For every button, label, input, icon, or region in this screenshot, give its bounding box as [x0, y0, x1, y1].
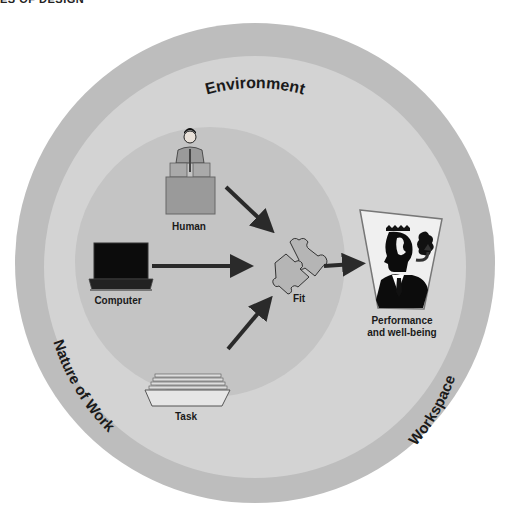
- fit-diagram: Environment Nature of Work Workspace Hum…: [0, 0, 506, 522]
- fit-label: Fit: [293, 293, 306, 304]
- outcome-label-line2: and well-being: [367, 327, 436, 338]
- fit-to-outcome-arrow: [324, 264, 354, 266]
- human-label: Human: [172, 221, 206, 232]
- task-label: Task: [175, 411, 197, 422]
- computer-label: Computer: [94, 295, 141, 306]
- paper-tray-icon: [145, 374, 230, 406]
- outcome-label-line1: Performance: [371, 315, 433, 326]
- laptop-icon: [89, 243, 153, 291]
